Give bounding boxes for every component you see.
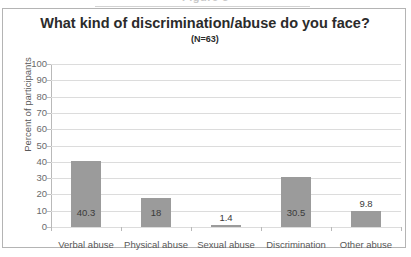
- gridline: [51, 129, 401, 130]
- figure-caption-strip: Figure 5: [0, 0, 411, 8]
- bar-value-label: 1.4: [191, 212, 261, 223]
- y-axis-tick-label: 80: [7, 92, 47, 102]
- y-axis-tick-mark: [47, 113, 51, 114]
- gridline: [51, 80, 401, 81]
- bar: [211, 225, 241, 227]
- y-axis-tick-mark: [47, 146, 51, 147]
- y-axis-tick-label: 60: [7, 124, 47, 134]
- x-axis-tick-mark: [261, 227, 262, 231]
- bar-value-label: 30.5: [261, 207, 331, 218]
- bar-value-label: 18: [121, 207, 191, 218]
- gridline: [51, 64, 401, 65]
- y-axis-tick-mark: [47, 162, 51, 163]
- category-label: Physical abuse: [121, 239, 191, 250]
- y-axis-tick-label: 50: [7, 141, 47, 151]
- y-axis-tick-label: 10: [7, 206, 47, 216]
- x-axis-tick-mark: [51, 227, 52, 231]
- caption-rule: [95, 6, 310, 7]
- y-axis-tick-label: 0: [7, 222, 47, 232]
- y-axis-tick-mark: [47, 129, 51, 130]
- y-axis-tick-mark: [47, 80, 51, 81]
- y-axis-tick-mark: [47, 64, 51, 65]
- y-axis-tick-label: 20: [7, 189, 47, 199]
- category-label: Discrimination: [261, 239, 331, 250]
- chart-title: What kind of discrimination/abuse do you…: [3, 15, 407, 31]
- y-axis-tick-label: 70: [7, 108, 47, 118]
- figure-caption-text: Figure 5: [0, 0, 411, 3]
- x-axis-tick-mark: [121, 227, 122, 231]
- x-axis-tick-mark: [401, 227, 402, 231]
- bar-value-label: 40.3: [51, 207, 121, 218]
- gridline: [51, 178, 401, 179]
- bar-value-label: 9.8: [331, 198, 401, 209]
- gridline: [51, 97, 401, 98]
- y-axis-tick-label: 40: [7, 157, 47, 167]
- chart-container: What kind of discrimination/abuse do you…: [2, 8, 406, 248]
- y-axis-tick-mark: [47, 194, 51, 195]
- y-axis-tick-mark: [47, 97, 51, 98]
- y-axis-tick-label: 90: [7, 75, 47, 85]
- category-label: Verbal abuse: [51, 239, 121, 250]
- bar: [281, 177, 311, 227]
- plot-area: 1009080706050403020100 40.3181.430.59.8 …: [51, 64, 401, 227]
- y-axis-tick-label: 100: [7, 59, 47, 69]
- chart-subtitle: (N=63): [3, 34, 407, 44]
- x-axis-tick-mark: [191, 227, 192, 231]
- y-axis-tick-label: 30: [7, 173, 47, 183]
- gridline: [51, 194, 401, 195]
- category-label: Sexual abuse: [191, 239, 261, 250]
- gridline: [51, 227, 401, 228]
- gridline: [51, 162, 401, 163]
- y-axis-tick-mark: [47, 178, 51, 179]
- gridline: [51, 146, 401, 147]
- x-axis-tick-mark: [331, 227, 332, 231]
- bar: [351, 211, 381, 227]
- gridline: [51, 113, 401, 114]
- category-label: Other abuse: [331, 239, 401, 250]
